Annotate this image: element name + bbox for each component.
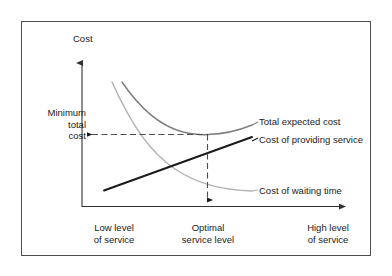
series-total-expected-cost	[122, 82, 252, 135]
series-cost-of-providing-service	[104, 137, 252, 191]
series-label-cost-of-providing-service: Cost of providing service	[259, 134, 363, 146]
x-axis-label-low: Low level of service	[78, 222, 150, 245]
x-axis-label-high: High level of service	[292, 222, 364, 245]
figure-container: Cost Minimum total cost Total expected c…	[0, 0, 392, 276]
y-axis-title: Cost	[73, 33, 93, 45]
leader-total-expected-cost	[252, 122, 258, 125]
x-axis-label-optimal: Optimal service level	[168, 222, 248, 245]
leader-cost-of-waiting-time	[252, 190, 258, 191]
leader-cost-of-providing-service	[252, 138, 258, 141]
series-label-total-expected-cost: Total expected cost	[259, 116, 340, 128]
series-cost-of-waiting-time	[112, 82, 252, 191]
series-label-cost-of-waiting-time: Cost of waiting time	[259, 185, 342, 197]
minimum-total-cost-annotation: Minimum total cost	[22, 107, 86, 142]
